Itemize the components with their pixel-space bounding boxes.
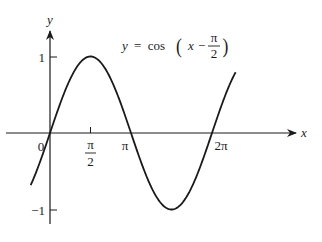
y-axis-label: y [45, 12, 53, 27]
svg-text:y = cos: y = cos [120, 38, 165, 53]
equation-title: y = cos ( x − π 2 ) [120, 30, 228, 61]
x-tick-label-pi-over-2-num: π [87, 137, 94, 152]
x-tick-label-pi-over-2: π 2 [85, 137, 96, 169]
eq-lparen: ( [176, 33, 182, 58]
eq-den: 2 [211, 46, 218, 61]
eq-equals: = [134, 38, 141, 53]
x-axis-label: x [300, 125, 307, 140]
eq-lhs: y [120, 38, 128, 53]
x-tick-label-2pi: 2π [214, 138, 228, 153]
x-tick-label-pi-over-2-den: 2 [87, 154, 94, 169]
eq-x: x [187, 38, 194, 53]
x-tick-label-0: 0 [38, 139, 45, 154]
eq-func: cos [148, 38, 165, 53]
y-tick-label-1: 1 [39, 50, 46, 65]
eq-num: π [211, 30, 218, 45]
eq-minus: − [198, 38, 205, 53]
y-tick-label-neg1: −1 [31, 203, 45, 218]
x-tick-label-pi: π [122, 138, 129, 153]
eq-rparen: ) [222, 33, 228, 58]
cosine-chart: y x 1 −1 0 π 2 π 2π y = cos ( x − π 2 ) [0, 0, 322, 242]
